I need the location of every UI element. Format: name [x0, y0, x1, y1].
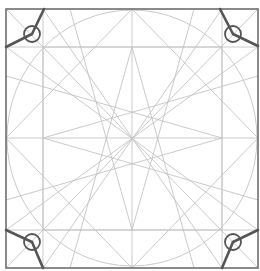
- geometric-construction-diagram: [0, 0, 260, 271]
